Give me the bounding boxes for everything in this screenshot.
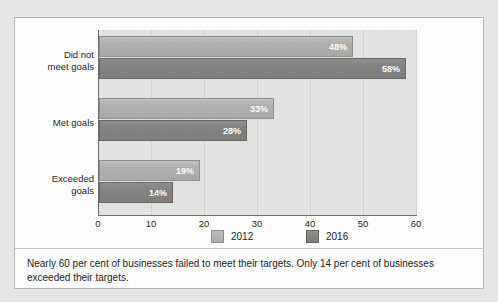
bar-value-label: 14%	[149, 188, 167, 198]
legend-label-2016: 2016	[326, 231, 348, 242]
plot-area: 48% 58% 33% 28% 19% 14%	[98, 30, 417, 215]
legend-item-2012[interactable]: 2012	[211, 230, 253, 243]
legend-item-2016[interactable]: 2016	[306, 230, 348, 243]
legend-swatch-2016-icon	[306, 230, 319, 243]
x-tick-label-60: 60	[411, 218, 422, 229]
bar-value-label: 19%	[176, 166, 194, 176]
bar-value-label: 28%	[223, 126, 241, 136]
x-tick-label-40: 40	[305, 218, 316, 229]
category-axis-labels: Did not meet goals Met goals Exceeded go…	[15, 30, 94, 215]
gridline-60	[416, 30, 417, 215]
figure-root: 48% 58% 33% 28% 19% 14%	[0, 0, 498, 302]
bar-exceeded-goals-2016[interactable]: 14%	[99, 182, 173, 203]
x-axis-line	[98, 215, 417, 216]
bar-met-goals-2016[interactable]: 28%	[99, 120, 247, 141]
x-tick-label-30: 30	[252, 218, 263, 229]
legend-swatch-2012-icon	[211, 230, 224, 243]
figure-caption: Nearly 60 per cent of businesses failed …	[27, 257, 473, 285]
bar-value-label: 48%	[329, 42, 347, 52]
bar-chart: 48% 58% 33% 28% 19% 14%	[15, 18, 483, 231]
bar-did-not-meet-goals-2012[interactable]: 48%	[99, 36, 353, 57]
category-label-did-not-meet-goals: Did not meet goals	[18, 49, 94, 72]
x-tick-label-20: 20	[199, 218, 210, 229]
bar-met-goals-2012[interactable]: 33%	[99, 98, 274, 119]
figure-panel: 48% 58% 33% 28% 19% 14%	[14, 17, 484, 289]
x-tick-label-50: 50	[358, 218, 369, 229]
category-label-met-goals: Met goals	[18, 117, 94, 129]
category-label-exceeded-goals: Exceeded goals	[18, 173, 94, 196]
x-tick-label-0: 0	[95, 218, 100, 229]
chart-legend: 2012 2016	[15, 230, 483, 250]
bar-did-not-meet-goals-2016[interactable]: 58%	[99, 58, 406, 79]
bar-exceeded-goals-2012[interactable]: 19%	[99, 160, 200, 181]
legend-label-2012: 2012	[231, 231, 253, 242]
caption-divider	[15, 248, 483, 249]
bar-value-label: 58%	[382, 64, 400, 74]
x-tick-label-10: 10	[146, 218, 157, 229]
bar-value-label: 33%	[250, 104, 268, 114]
